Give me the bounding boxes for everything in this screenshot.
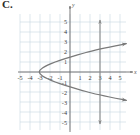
x-tick: 5 xyxy=(118,74,121,81)
x-tick: 2 xyxy=(88,74,91,81)
x-tick: 4 xyxy=(108,74,111,81)
y-tick: 4 xyxy=(64,28,67,35)
y-tick: -5 xyxy=(62,119,67,126)
x-tick-labels: -5 -4 -3 -2 -1 1 2 3 4 5 xyxy=(17,74,121,81)
y-axis-label: y xyxy=(71,2,75,8)
y-tick: 2 xyxy=(64,48,67,55)
x-tick: 1 xyxy=(78,74,81,81)
coordinate-graph: x y -5 -4 -3 -2 -1 1 2 3 4 5 5 4 3 2 1 -… xyxy=(0,0,140,135)
y-tick: 3 xyxy=(64,38,67,45)
x-axis-label: x xyxy=(133,69,137,75)
y-tick: -3 xyxy=(62,99,67,106)
x-tick: -4 xyxy=(27,74,32,81)
figure-container: C. xyxy=(0,0,140,135)
y-tick: 5 xyxy=(64,18,67,25)
x-tick: -5 xyxy=(17,74,22,81)
y-tick: -4 xyxy=(62,109,67,116)
axes xyxy=(18,6,133,132)
y-tick: -2 xyxy=(62,89,67,96)
